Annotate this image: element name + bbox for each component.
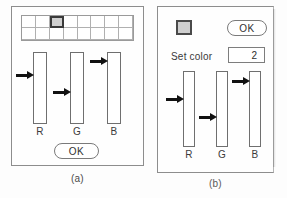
slider-label-red: R xyxy=(26,126,54,137)
ok-button[interactable]: OK xyxy=(227,20,267,36)
palette-cell[interactable] xyxy=(105,28,119,40)
slider-label-green: G xyxy=(208,149,236,160)
slider-track-red[interactable] xyxy=(33,52,47,124)
palette-cell[interactable] xyxy=(50,28,64,40)
palette-cell[interactable] xyxy=(36,28,50,40)
dialog-panel-b: OK Set color 2 R G B xyxy=(157,6,274,173)
color-palette-grid[interactable] xyxy=(21,15,134,41)
palette-cell[interactable] xyxy=(119,28,133,40)
palette-cell[interactable] xyxy=(36,16,50,28)
palette-cell[interactable] xyxy=(119,16,133,28)
set-color-value-field[interactable]: 2 xyxy=(228,47,265,63)
caption-panel-b: (b) xyxy=(157,178,274,189)
pointer-head xyxy=(210,113,217,121)
slider-track-green[interactable] xyxy=(216,71,228,147)
slider-track-green[interactable] xyxy=(70,52,84,124)
ok-button[interactable]: OK xyxy=(54,143,99,159)
caption-panel-a: (a) xyxy=(11,173,144,184)
slider-label-green: G xyxy=(63,126,91,137)
pointer-head xyxy=(177,95,184,103)
current-color-swatch[interactable] xyxy=(176,20,192,35)
palette-cell[interactable] xyxy=(64,16,78,28)
dialog-panel-a: R G B OK xyxy=(11,6,144,166)
palette-cell-selected[interactable] xyxy=(50,16,64,28)
slider-label-red: R xyxy=(175,149,203,160)
palette-cell[interactable] xyxy=(78,28,92,40)
palette-cell[interactable] xyxy=(22,28,36,40)
set-color-label: Set color xyxy=(171,51,212,62)
palette-cell[interactable] xyxy=(22,16,36,28)
palette-cell[interactable] xyxy=(78,16,92,28)
pointer-head xyxy=(243,77,250,85)
palette-cell[interactable] xyxy=(91,28,105,40)
pointer-head xyxy=(64,88,71,96)
figure-canvas: R G B OK (a) OK Set color 2 R xyxy=(0,0,287,198)
slider-track-blue[interactable] xyxy=(107,52,121,124)
palette-cell[interactable] xyxy=(105,16,119,28)
slider-track-red[interactable] xyxy=(183,71,195,147)
pointer-head xyxy=(27,71,34,79)
slider-track-blue[interactable] xyxy=(249,71,261,147)
pointer-head xyxy=(101,57,108,65)
palette-cell[interactable] xyxy=(91,16,105,28)
slider-label-blue: B xyxy=(100,126,128,137)
palette-cell[interactable] xyxy=(64,28,78,40)
slider-label-blue: B xyxy=(241,149,269,160)
